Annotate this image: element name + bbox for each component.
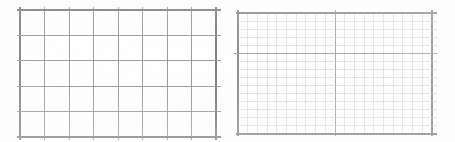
screenshot-canvas	[0, 0, 455, 142]
fine-grid-panel	[238, 13, 432, 134]
coarse-grid-lines	[20, 10, 216, 137]
coarse-grid-panel	[20, 10, 216, 137]
fine-grid-lines	[238, 13, 432, 134]
